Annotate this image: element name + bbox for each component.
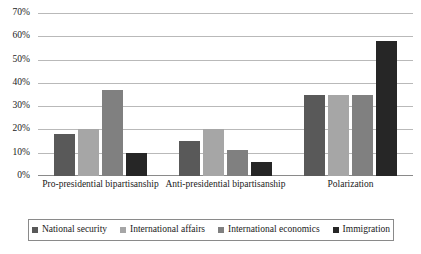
y-axis-tick-label: 30% bbox=[13, 101, 30, 111]
legend-item: National security bbox=[32, 225, 107, 235]
bar-groups bbox=[38, 13, 413, 176]
legend-item: Immigration bbox=[333, 225, 391, 235]
y-axis-tick-label: 0% bbox=[17, 171, 30, 181]
bar bbox=[227, 150, 248, 176]
y-axis-tick-label: 50% bbox=[13, 55, 30, 65]
bar bbox=[352, 95, 373, 177]
legend-swatch-icon bbox=[32, 227, 38, 233]
chart-legend: National securityInternational affairsIn… bbox=[28, 219, 394, 241]
bar bbox=[304, 95, 325, 177]
plot-area bbox=[38, 13, 413, 176]
x-axis-labels: Pro-presidential bipartisanshipAnti-pres… bbox=[38, 179, 413, 209]
legend-label: National security bbox=[42, 225, 107, 235]
legend-item: International economics bbox=[218, 225, 320, 235]
y-axis-tick-label: 70% bbox=[13, 8, 30, 18]
bar bbox=[78, 129, 99, 176]
bar bbox=[203, 129, 224, 176]
legend-swatch-icon bbox=[120, 227, 126, 233]
bar-group bbox=[38, 13, 163, 176]
y-axis-tick-label: 10% bbox=[13, 148, 30, 158]
bar bbox=[102, 90, 123, 176]
bar-group bbox=[288, 13, 413, 176]
bar bbox=[251, 162, 272, 176]
y-axis: 0%10%20%30%40%50%60%70% bbox=[0, 13, 34, 176]
legend-label: International economics bbox=[228, 225, 320, 235]
y-axis-tick-label: 60% bbox=[13, 32, 30, 42]
x-axis-category-label: Pro-presidential bipartisanship bbox=[38, 179, 163, 209]
bar bbox=[376, 41, 397, 176]
legend-label: International affairs bbox=[130, 225, 205, 235]
bar bbox=[328, 95, 349, 177]
legend-label: Immigration bbox=[343, 225, 391, 235]
legend-swatch-icon bbox=[218, 227, 224, 233]
legend-item: International affairs bbox=[120, 225, 205, 235]
x-axis-category-label: Polarization bbox=[288, 179, 413, 209]
bar-group bbox=[163, 13, 288, 176]
bar bbox=[126, 153, 147, 176]
x-axis-category-label: Anti-presidential bipartisanship bbox=[163, 179, 288, 209]
bar-chart: 0%10%20%30%40%50%60%70% Pro-presidential… bbox=[0, 0, 421, 254]
bar bbox=[179, 141, 200, 176]
y-axis-tick-label: 40% bbox=[13, 78, 30, 88]
bar bbox=[54, 134, 75, 176]
legend-swatch-icon bbox=[333, 227, 339, 233]
y-axis-tick-label: 20% bbox=[13, 125, 30, 135]
